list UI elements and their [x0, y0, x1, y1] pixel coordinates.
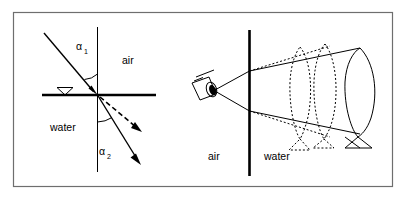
left-panel-air-label: air: [122, 54, 134, 66]
camera-icon: [192, 70, 219, 100]
virtual-fish-near-tail: [313, 139, 334, 148]
real-fish-body: [345, 48, 375, 137]
incidence-angle-label-subscript: 1: [84, 48, 88, 55]
virtual-fish-image-near: [313, 44, 336, 148]
right-panel-water-label: water: [263, 150, 290, 162]
refracted-ray-dashed-line: [100, 97, 136, 127]
virtual-fish-far-tail: [289, 139, 310, 150]
apparent-ray-lower-dotted: [250, 111, 331, 137]
left-panel-water-label: water: [49, 121, 76, 133]
left-panel-group: α 1 α 2 air water: [42, 27, 156, 172]
incident-ray-line: [44, 33, 94, 92]
camera-top-accent-line: [196, 70, 214, 77]
sight-ray-lower-solid: [214, 91, 360, 135]
incidence-angle-arc: [85, 74, 98, 80]
figure-container: α 1 α 2 air water: [0, 0, 406, 199]
optics-refraction-figure: α 1 α 2 air water: [0, 0, 406, 199]
refraction-angle-arc: [98, 118, 113, 123]
refraction-angle-label: α: [99, 145, 105, 157]
sight-ray-upper-solid: [214, 48, 360, 91]
right-panel-group: air water: [192, 30, 375, 176]
real-fish-outline: [345, 48, 375, 148]
right-panel-air-label: air: [208, 150, 220, 162]
refracted-ray-solid-arrowhead: [131, 154, 142, 166]
refraction-angle-label-subscript: 2: [107, 153, 111, 160]
incidence-angle-label: α: [76, 40, 82, 52]
